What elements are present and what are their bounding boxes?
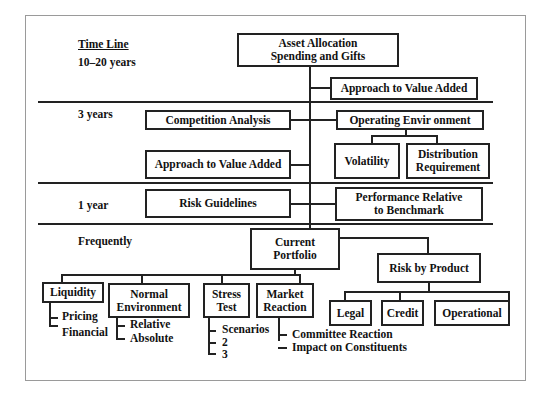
separator-line [38,182,493,184]
connector-line [399,291,401,300]
connector-line [278,347,287,349]
connector-line [208,342,216,344]
connector-line [371,135,437,137]
leaf-3: 3 [222,348,228,360]
risk-guidelines-box: Risk Guidelines [145,189,291,218]
connector-line [290,164,310,166]
stress-test-box: Stress Test [203,283,250,318]
connector-line [278,334,287,336]
connector-line [49,302,51,326]
connector-line [116,338,125,340]
normal-environment-box: Normal Environment [108,283,190,318]
connector-line [290,119,310,121]
legal-box: Legal [329,300,372,326]
credit-box: Credit [381,300,424,326]
connector-line [508,291,510,300]
connector-line [371,135,373,143]
timeline-row-frequently: Frequently [78,235,132,247]
liquidity-box: Liquidity [42,282,104,303]
volatility-box: Volatility [334,143,400,179]
operational-box: Operational [434,300,510,326]
competition-analysis-box: Competition Analysis [145,110,291,130]
separator-line [38,101,493,103]
connector-line [49,325,58,327]
connector-line [344,291,510,293]
connector-line [116,317,118,339]
connector-line [436,135,438,143]
leaf-impact-on-constituents: Impact on Constituents [292,341,407,353]
connector-line [208,317,210,354]
connector-line [208,353,216,355]
leaf-committee-reaction: Committee Reaction [292,328,393,340]
distribution-requirement-box: Distribution Requirement [406,143,490,179]
timeline-row-10-20-years: 10–20 years [78,56,136,68]
separator-line [38,223,493,225]
approach-value-added-top-box: Approach to Value Added [330,77,478,100]
connector-line [339,237,429,239]
connector-line [49,317,58,319]
market-reaction-box: Market Reaction [256,283,314,318]
connector-line [290,203,310,205]
operating-environment-box: Operating Envir onment [336,110,484,130]
connector-line [310,87,331,89]
leaf-2: 2 [222,336,228,348]
performance-relative-box: Performance Relative to Benchmark [335,187,483,221]
asset-allocation-box: Asset Allocation Spending and Gifts [237,33,399,67]
leaf-financial: Financial [62,326,108,338]
connector-line [221,274,223,283]
current-portfolio-box: Current Portfolio [250,228,340,270]
approach-value-added-mid-box: Approach to Value Added [145,150,291,179]
connector-line [310,119,337,121]
connector-line [278,317,280,341]
connector-line [141,274,143,283]
timeline-title: Time Line [78,38,129,50]
connector-line [427,237,429,253]
risk-by-product-box: Risk by Product [377,253,481,283]
connector-line [116,325,125,327]
leaf-relative: Relative [130,318,170,330]
connector-line [61,274,301,276]
leaf-scenarios: Scenarios [222,323,269,335]
connector-line [208,330,216,332]
connector-line [299,274,301,283]
connector-line [344,291,346,300]
timeline-row-1-year: 1 year [78,199,108,211]
leaf-absolute: Absolute [130,332,173,344]
leaf-pricing: Pricing [62,310,98,322]
connector-line [61,274,63,282]
timeline-row-3-years: 3 years [78,108,113,120]
connector-line [310,203,336,205]
connector-line [309,49,311,229]
